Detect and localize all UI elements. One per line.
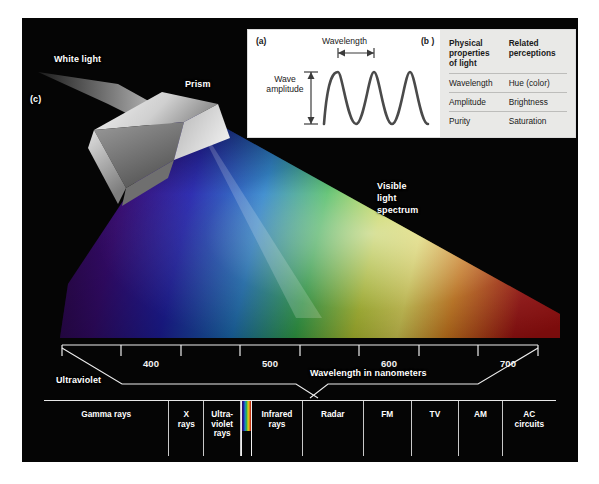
panel-b-tag: (b )	[421, 36, 434, 46]
table-row: Wavelength Hue (color)	[449, 74, 567, 93]
table-row: Amplitude Brightness	[449, 93, 567, 112]
em-band-ac-circuits: AC circuits	[503, 401, 556, 456]
properties-table-panel: (b ) Physical properties of light Relate…	[440, 30, 575, 137]
em-band-radar: Radar	[303, 401, 364, 456]
tick-label-400: 400	[143, 358, 159, 369]
cell-perception-saturation: Saturation	[503, 112, 567, 131]
amplitude-arrow	[304, 72, 318, 124]
sine-wave-curve	[324, 72, 428, 124]
table-header-row: Physical properties of light Related per…	[449, 38, 567, 74]
column-header-related-perceptions: Related perceptions	[503, 38, 567, 74]
electromagnetic-spectrum-band: Gamma rays X rays Ultra- violet rays Inf…	[44, 400, 556, 456]
cell-perception-brightness: Brightness	[503, 93, 567, 112]
visible-color-strip	[242, 401, 251, 431]
em-band-am: AM	[459, 401, 503, 456]
table-row: Purity Saturation	[449, 112, 567, 131]
em-band-fm: FM	[364, 401, 412, 456]
em-band-infrared-rays: Infrared rays	[252, 401, 302, 456]
em-band-ultraviolet-rays: Ultra- violet rays	[204, 401, 241, 456]
column-header-physical-properties: Physical properties of light	[449, 38, 503, 74]
cell-physical-purity: Purity	[449, 112, 503, 131]
cell-perception-hue: Hue (color)	[503, 74, 567, 93]
tick-label-500: 500	[262, 358, 278, 369]
em-band-x-rays: X rays	[169, 401, 204, 456]
em-band-gamma-rays: Gamma rays	[44, 401, 169, 456]
sine-wave-graphic	[248, 30, 440, 137]
em-band-visible-light	[241, 401, 252, 456]
tick-label-700: 700	[500, 358, 516, 369]
cell-physical-amplitude: Amplitude	[449, 93, 503, 112]
inset-panel: (a) Wavelength Wave amplitude	[248, 30, 575, 137]
cell-physical-wavelength: Wavelength	[449, 74, 503, 93]
em-band-tv: TV	[412, 401, 460, 456]
tick-label-600: 600	[381, 358, 397, 369]
figure-plate: White light Prism (c) Visible light spec…	[22, 18, 578, 462]
wave-diagram-panel: (a) Wavelength Wave amplitude	[248, 30, 440, 137]
light-properties-table: Physical properties of light Related per…	[449, 38, 567, 130]
